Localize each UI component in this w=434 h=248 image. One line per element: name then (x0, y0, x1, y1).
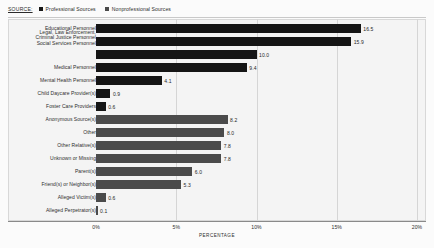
category-label-line: Mental Health Personnel (4, 78, 96, 84)
bar-value-label: 0.6 (108, 195, 115, 201)
x-axis-title: PERCENTAGE (0, 233, 434, 238)
x-tick-10%: 10% (251, 224, 262, 230)
bar-with-value: 15.9 (96, 35, 364, 48)
category-label: Other (4, 130, 96, 136)
bar-row: Mental Health Personnel4.1 (0, 74, 434, 87)
category-label-line: Social Services Personnel (4, 41, 96, 46)
bar-row: Parent(s)6.0 (0, 165, 434, 178)
bar-with-value: 7.8 (96, 152, 231, 165)
bar-with-value: 6.0 (96, 165, 202, 178)
legend-divider (8, 17, 426, 18)
x-tick-0%: 0% (92, 224, 100, 230)
bar-with-value: 0.1 (96, 204, 107, 217)
bar[interactable] (96, 193, 106, 202)
bar-value-label: 8.0 (227, 130, 234, 136)
category-label-line: Foster Care Providers (4, 104, 96, 110)
bar[interactable] (96, 89, 110, 98)
bar[interactable] (96, 154, 221, 163)
bar[interactable] (96, 63, 247, 72)
category-label: Foster Care Providers (4, 104, 96, 110)
bar[interactable] (96, 102, 106, 111)
bar-with-value: 16.5 (96, 22, 373, 35)
category-label-line: Other Relative(s) (4, 143, 96, 149)
bar-row: Friend(s) or Neighbor(s)5.3 (0, 178, 434, 191)
legend-swatch-nonprofessional (105, 7, 110, 12)
category-label: Anonymous Source(s) (4, 117, 96, 123)
category-label: Parent(s) (4, 169, 96, 175)
bar[interactable] (96, 50, 257, 59)
category-label-line: Medical Personnel (4, 65, 96, 71)
category-label: Child Daycare Provider(s) (4, 91, 96, 97)
bar-rows: Educational Personnel16.5Legal, Law Enfo… (0, 19, 434, 221)
x-tick-5%: 5% (172, 224, 180, 230)
bar-value-label: 4.1 (164, 78, 171, 84)
x-tick-20%: 20% (412, 224, 423, 230)
legend-label-nonprofessional: Nonprofessional Sources (112, 6, 171, 12)
category-label-line: Child Daycare Provider(s) (4, 91, 96, 97)
bar-with-value: 0.6 (96, 191, 115, 204)
category-label: Alleged Victim(s) (4, 195, 96, 201)
legend-label-professional: Professional Sources (46, 6, 96, 12)
bar-value-label: 7.8 (224, 156, 231, 162)
bar[interactable] (96, 141, 221, 150)
bar-value-label: 5.3 (184, 182, 191, 188)
x-tick-15%: 15% (332, 224, 343, 230)
bar[interactable] (96, 180, 181, 189)
bar[interactable] (96, 206, 98, 215)
legend-item-nonprofessional: Nonprofessional Sources (105, 6, 171, 12)
bar-with-value: 7.8 (96, 139, 231, 152)
bar[interactable] (96, 37, 351, 46)
bar-with-value: 8.0 (96, 126, 234, 139)
bar-row: Unknown or Missing7.8 (0, 152, 434, 165)
x-axis-line (8, 221, 426, 222)
bar-value-label: 9.4 (249, 65, 256, 71)
bar-with-value: 9.4 (96, 61, 257, 74)
bar-value-label: 0.9 (113, 91, 120, 97)
bar-value-label: 0.6 (108, 104, 115, 110)
category-label-line: Unknown or Missing (4, 156, 96, 162)
bar-row: Foster Care Providers0.6 (0, 100, 434, 113)
chart-container: SOURCE: Professional Sources Nonprofessi… (0, 0, 434, 248)
bar-row: Alleged Victim(s)0.6 (0, 191, 434, 204)
bar-with-value: 10.0 (96, 48, 269, 61)
category-label: Legal, Law Enforcement,Criminal Justice … (4, 30, 96, 46)
category-label: Mental Health Personnel (4, 78, 96, 84)
category-label-line: Other (4, 130, 96, 136)
legend-item-professional: Professional Sources (39, 6, 96, 12)
bar[interactable] (96, 24, 361, 33)
bar-row: Other Relative(s)7.8 (0, 139, 434, 152)
bar-value-label: 15.9 (354, 39, 364, 45)
bar-row: Legal, Law Enforcement,Criminal Justice … (0, 35, 434, 48)
category-label-line: Friend(s) or Neighbor(s) (4, 182, 96, 188)
bar-row: Other8.0 (0, 126, 434, 139)
category-label: Unknown or Missing (4, 156, 96, 162)
category-label: Friend(s) or Neighbor(s) (4, 182, 96, 188)
category-label: Alleged Perpetrator(s) (4, 208, 96, 214)
category-label: Medical Personnel (4, 65, 96, 71)
chart-legend: SOURCE: Professional Sources Nonprofessi… (8, 6, 176, 12)
bar-row: Child Daycare Provider(s)0.9 (0, 87, 434, 100)
bar[interactable] (96, 115, 228, 124)
bar-value-label: 8.2 (230, 117, 237, 123)
bar-value-label: 10.0 (259, 52, 269, 58)
bar[interactable] (96, 128, 224, 137)
bar-with-value: 4.1 (96, 74, 172, 87)
bar-row: 10.0 (0, 48, 434, 61)
category-label-line: Parent(s) (4, 169, 96, 175)
bar[interactable] (96, 167, 192, 176)
bar[interactable] (96, 76, 162, 85)
legend-swatch-professional (39, 7, 44, 12)
bar-row: Medical Personnel9.4 (0, 61, 434, 74)
bar-row: Anonymous Source(s)8.2 (0, 113, 434, 126)
category-label-line: Anonymous Source(s) (4, 117, 96, 123)
category-label-line: Alleged Victim(s) (4, 195, 96, 201)
legend-title: SOURCE: (8, 6, 33, 12)
bar-row: Alleged Perpetrator(s)0.1 (0, 204, 434, 217)
bar-with-value: 5.3 (96, 178, 191, 191)
bar-value-label: 0.1 (100, 208, 107, 214)
bar-with-value: 0.9 (96, 87, 120, 100)
bar-value-label: 7.8 (224, 143, 231, 149)
bar-value-label: 6.0 (195, 169, 202, 175)
bar-value-label: 16.5 (363, 26, 373, 32)
category-label: Other Relative(s) (4, 143, 96, 149)
